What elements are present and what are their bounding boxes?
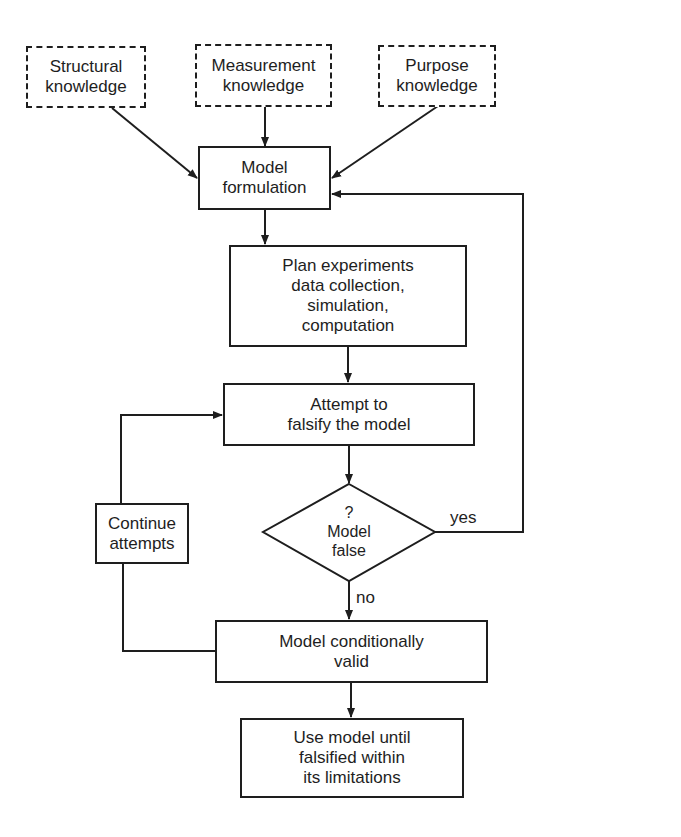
model-conditionally-valid-box: Model conditionally valid — [215, 620, 488, 683]
structural-knowledge-box: Structural knowledge — [26, 46, 146, 108]
purpose-knowledge-box: Purpose knowledge — [378, 45, 496, 107]
arrow-structural-to-formulation — [112, 108, 197, 178]
model-formulation-label: Model formulation — [222, 158, 306, 198]
use-model-box: Use model until falsified within its lim… — [240, 718, 464, 798]
plan-experiments-label: Plan experiments data collection, simula… — [282, 256, 413, 336]
continue-attempts-label: Continue attempts — [108, 514, 176, 554]
model-conditionally-valid-label: Model conditionally valid — [279, 632, 424, 672]
use-model-label: Use model until falsified within its lim… — [293, 728, 410, 788]
attempt-falsify-label: Attempt to falsify the model — [288, 395, 411, 435]
edge-label-no: no — [356, 588, 375, 608]
arrow-purpose-to-formulation — [332, 106, 438, 178]
structural-knowledge-label: Structural knowledge — [45, 57, 126, 97]
line-valid-to-continue — [123, 563, 215, 651]
attempt-falsify-box: Attempt to falsify the model — [223, 383, 475, 446]
measurement-knowledge-box: Measurement knowledge — [195, 44, 332, 107]
edge-label-yes: yes — [450, 508, 476, 528]
plan-experiments-box: Plan experiments data collection, simula… — [229, 245, 467, 347]
measurement-knowledge-label: Measurement knowledge — [212, 56, 316, 96]
decision-model-false: ? Model false — [299, 498, 399, 564]
model-formulation-box: Model formulation — [198, 146, 331, 210]
continue-attempts-box: Continue attempts — [95, 503, 189, 564]
decision-label: ? Model false — [327, 503, 371, 560]
arrow-continue-to-attempt — [121, 415, 222, 503]
purpose-knowledge-label: Purpose knowledge — [396, 56, 477, 96]
